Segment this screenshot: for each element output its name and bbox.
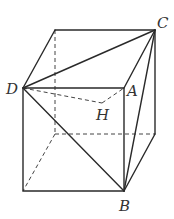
cube-diagram: C D A H B — [0, 0, 174, 219]
label-A: A — [125, 82, 138, 100]
label-B: B — [118, 197, 130, 215]
edge-top-left-depth — [23, 30, 55, 88]
segment-DC — [23, 30, 155, 88]
segment-HA — [102, 88, 124, 103]
label-D: D — [5, 80, 18, 98]
edge-AC — [124, 30, 155, 88]
hidden-edge-bottom-left-depth — [23, 134, 55, 191]
segment-DB — [23, 88, 124, 191]
segment-CB — [124, 30, 155, 191]
label-H: H — [95, 106, 110, 124]
label-C: C — [157, 14, 169, 32]
edge-bottom-right-depth — [124, 134, 155, 191]
